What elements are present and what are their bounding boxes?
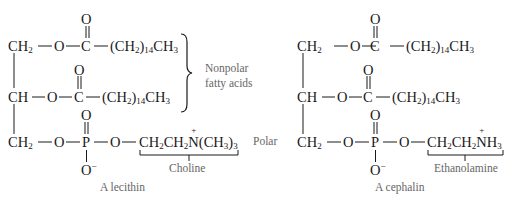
ch-group: CH: [8, 90, 28, 105]
phosphorus: P: [371, 135, 379, 150]
carbonyl-oxygen-1: O: [370, 12, 380, 27]
cephalin-caption: A cephalin: [375, 182, 425, 194]
ester-oxygen: O: [47, 90, 57, 105]
carbonyl-oxygen-2: O: [363, 63, 373, 78]
ester-oxygen: O: [54, 39, 64, 54]
choline-label: Choline: [169, 163, 205, 175]
phosphoryl-oxygen: O: [81, 108, 91, 123]
fatty-acid-chain: (CH2)14CH3: [102, 90, 170, 105]
polar-label: Polar: [253, 136, 277, 148]
ch-group: CH: [297, 90, 317, 105]
anionic-oxygen: O−: [81, 163, 97, 178]
anionic-oxygen: O−: [370, 163, 386, 178]
carbonyl-carbon: C: [370, 39, 380, 54]
lecithin-caption: A lecithin: [100, 182, 145, 194]
carbonyl-carbon: C: [81, 39, 91, 54]
choline-group: CH2CH2N+(CH3)3: [139, 135, 238, 150]
ch2-group: CH2: [8, 39, 33, 54]
ester-oxygen: O: [337, 90, 347, 105]
phospholipid-diagram: O CH2 O C (CH2)14CH3 O CH O C (CH2)14CH3…: [0, 0, 516, 201]
ch2-group: CH2: [8, 135, 33, 150]
phosphate-oxygen: O: [110, 135, 120, 150]
fatty-acid-chain: (CH2)14CH3: [392, 90, 460, 105]
carbonyl-oxygen-1: O: [81, 12, 91, 27]
phosphate-oxygen: O: [343, 135, 353, 150]
phosphate-oxygen: O: [54, 135, 64, 150]
fatty-acid-chain: (CH2)14CH3: [110, 39, 178, 54]
carbonyl-carbon: C: [363, 90, 373, 105]
phosphate-oxygen: O: [399, 135, 409, 150]
nonpolar-label: Nonpolar: [205, 63, 248, 75]
ch2-group: CH2: [297, 135, 322, 150]
ester-oxygen: O: [350, 39, 360, 54]
carbonyl-oxygen-2: O: [74, 63, 84, 78]
ethanolamine-label: Ethanolamine: [434, 163, 498, 175]
phosphorus: P: [82, 135, 90, 150]
carbonyl-carbon: C: [74, 90, 84, 105]
fatty-acids-label: fatty acids: [205, 78, 253, 90]
phosphoryl-oxygen: O: [370, 108, 380, 123]
ethanolamine-group: CH2CH2N+H3: [427, 135, 502, 150]
fatty-acid-chain: (CH2)14CH3: [406, 39, 474, 54]
ch2-group: CH2: [297, 39, 322, 54]
